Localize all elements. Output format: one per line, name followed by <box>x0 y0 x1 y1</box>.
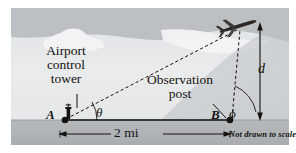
label-angle-phi: ϕ <box>229 107 236 121</box>
label-point-a: A <box>46 108 55 122</box>
point-marker-a <box>62 117 69 124</box>
label-baseline-distance: 2 mi <box>114 126 138 140</box>
label-not-drawn-to-scale: Not drawn to scale <box>229 130 296 139</box>
label-observation-post: Observation post <box>142 73 218 101</box>
label-airport-control-tower: Airport control tower <box>29 44 103 86</box>
diagram-canvas: Airport control tower Observation post A… <box>0 0 296 153</box>
label-point-b: B <box>211 108 220 122</box>
label-altitude-d: d <box>258 62 265 77</box>
label-angle-theta: θ <box>96 106 102 120</box>
